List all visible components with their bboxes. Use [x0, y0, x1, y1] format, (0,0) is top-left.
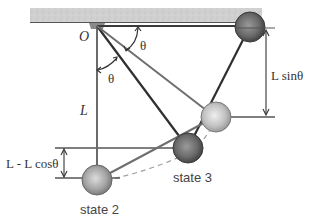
height-drop-label: L - L cosθ	[6, 156, 59, 171]
ball-state1	[235, 12, 265, 42]
ball-state2	[82, 165, 112, 195]
angle-arc-top	[126, 28, 138, 50]
length-label: L	[79, 103, 88, 118]
theta-label-top: θ	[140, 38, 146, 53]
pendulum-diagram: O θ θ L L - L cosθ L sinθ state 2 state …	[0, 0, 315, 219]
theta-label-vertical: θ	[108, 71, 114, 86]
state3-label: state 3	[173, 170, 212, 185]
angle-arc-vertical	[98, 58, 117, 70]
dimension-l-minus-l-cos-theta	[61, 149, 67, 177]
state2-label: state 2	[80, 202, 119, 217]
ceiling	[30, 8, 262, 23]
height-sin-label: L sinθ	[271, 68, 303, 83]
ball-light-intermediate	[201, 102, 231, 132]
pivot-label: O	[79, 29, 89, 44]
dimension-l-sin-theta	[263, 30, 269, 115]
ball-state3	[173, 133, 203, 163]
